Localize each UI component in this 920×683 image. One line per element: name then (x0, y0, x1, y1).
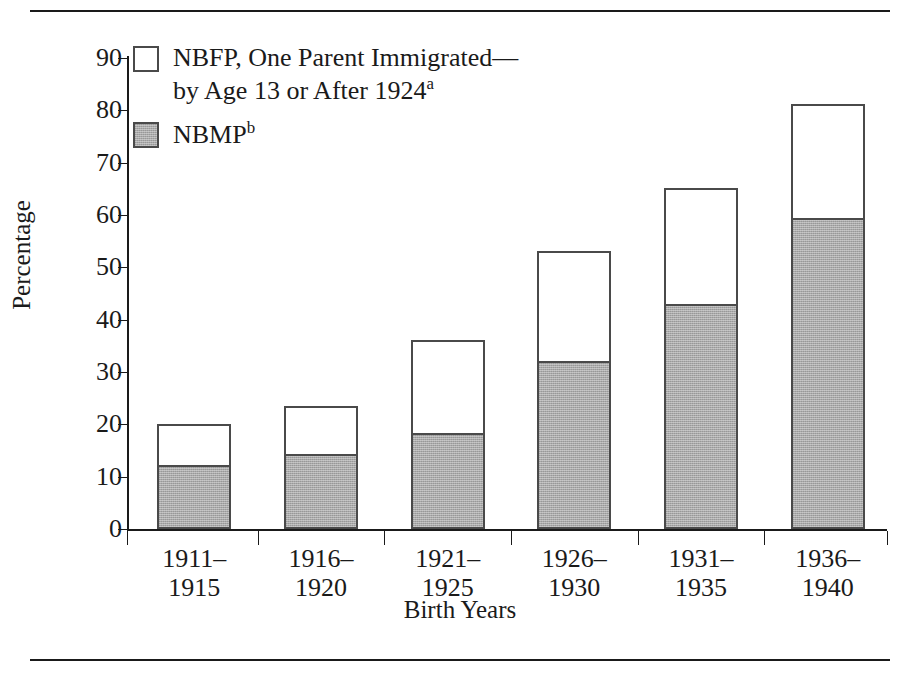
x-tick-mark-5 (764, 531, 765, 545)
bar-segment-nbfp (791, 104, 865, 220)
y-tick-label: 20 (96, 411, 122, 437)
y-axis-title: Percentage (8, 200, 36, 310)
y-tick-label: 10 (96, 464, 122, 490)
bar-segment-nbmp (411, 433, 485, 529)
x-tick-mark-end-2 (887, 531, 888, 545)
y-tick-label: 60 (96, 202, 122, 228)
plot-area: 0102030405060708090 1911– 19151916– 1920… (127, 56, 887, 531)
x-tick-mark-1 (258, 531, 259, 545)
bar-segment-nbmp (537, 361, 611, 530)
y-tick-label: 30 (96, 359, 122, 385)
top-rule (30, 10, 890, 12)
x-axis-line (127, 529, 887, 531)
bar-segment-nbmp (791, 218, 865, 529)
y-tick-label: 50 (96, 254, 122, 280)
bar-segment-nbfp (157, 424, 231, 467)
y-tick-label: 90 (96, 45, 122, 71)
bar-segment-nbfp (664, 188, 738, 306)
bar-segment-nbfp (537, 251, 611, 362)
bar-segment-nbmp (157, 465, 231, 529)
x-tick-mark-4 (638, 531, 639, 545)
bar-segment-nbfp (284, 406, 358, 456)
bottom-rule (30, 659, 890, 661)
x-tick-mark-3 (511, 531, 512, 545)
bar-segment-nbmp (664, 304, 738, 529)
x-tick-mark-2 (384, 531, 385, 545)
figure-container: NBFP, One Parent Immigrated— by Age 13 o… (0, 0, 920, 683)
y-tick-label: 80 (96, 97, 122, 123)
bar-segment-nbfp (411, 340, 485, 436)
y-tick-label: 70 (96, 150, 122, 176)
y-axis-line (127, 56, 129, 531)
x-tick-mark-end-1 (127, 531, 128, 545)
bar-segment-nbmp (284, 454, 358, 529)
y-tick-label: 40 (96, 307, 122, 333)
y-tick-label: 0 (109, 516, 122, 542)
x-tick-label-6: 1936– 1940 (753, 544, 903, 602)
x-axis-title: Birth Years (0, 596, 920, 624)
